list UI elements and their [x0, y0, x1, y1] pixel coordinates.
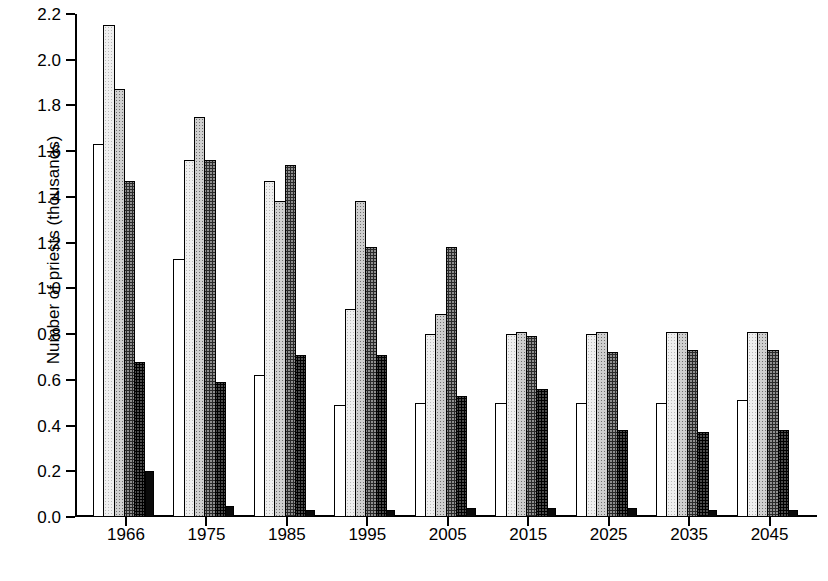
bar	[305, 510, 315, 517]
y-tick-label: 1.0	[15, 280, 61, 297]
bar	[778, 430, 789, 517]
plot-area: 0.00.20.40.60.81.01.21.41.61.82.02.2 196…	[75, 14, 817, 517]
bar	[536, 389, 547, 517]
bar	[547, 508, 557, 517]
y-tick-label: 0.8	[15, 326, 61, 343]
bar	[617, 430, 628, 517]
x-tick-label: 2025	[564, 526, 654, 543]
bar	[145, 471, 155, 517]
y-tick-label: 1.2	[15, 235, 61, 252]
y-tick-label: 1.8	[15, 97, 61, 114]
x-tick-label: 2035	[644, 526, 734, 543]
y-tick-label: 0.6	[15, 372, 61, 389]
bar	[456, 396, 467, 517]
y-tick-label: 0.2	[15, 463, 61, 480]
bar	[295, 355, 306, 517]
bar	[376, 355, 387, 517]
y-tick-mark	[66, 242, 75, 244]
y-tick-label: 0.0	[15, 509, 61, 526]
y-tick-mark	[66, 379, 75, 381]
bar	[627, 508, 637, 517]
y-tick-label: 0.4	[15, 418, 61, 435]
y-tick-mark	[66, 104, 75, 106]
x-tick-label: 2005	[403, 526, 493, 543]
x-tick-label: 2015	[483, 526, 573, 543]
x-tick-label: 1995	[322, 526, 412, 543]
bar	[466, 508, 476, 517]
bar	[708, 510, 718, 517]
bar	[386, 510, 396, 517]
bar	[788, 510, 798, 517]
x-tick-label: 1985	[242, 526, 332, 543]
x-tick-label: 1975	[161, 526, 251, 543]
y-tick-mark	[66, 425, 75, 427]
x-tick-label: 1966	[81, 526, 171, 543]
y-tick-mark	[66, 196, 75, 198]
y-tick-mark	[66, 150, 75, 152]
bar-chart: Number of priests (thousands) 0.00.20.40…	[0, 0, 828, 581]
y-tick-label: 1.4	[15, 189, 61, 206]
bar	[697, 432, 708, 517]
y-tick-label: 1.6	[15, 143, 61, 160]
y-tick-mark	[66, 516, 75, 518]
x-tick-label: 2045	[725, 526, 815, 543]
bar	[215, 382, 226, 517]
y-tick-mark	[66, 333, 75, 335]
y-tick-mark	[66, 470, 75, 472]
y-tick-mark	[66, 59, 75, 61]
y-tick-label: 2.2	[15, 6, 61, 23]
bar	[225, 506, 235, 517]
y-tick-label: 2.0	[15, 52, 61, 69]
y-axis-line	[75, 14, 77, 517]
y-tick-mark	[66, 13, 75, 15]
y-tick-mark	[66, 287, 75, 289]
